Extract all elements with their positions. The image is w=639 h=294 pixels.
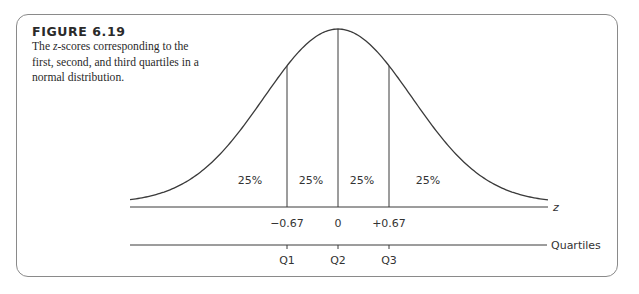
- normal-distribution-diagram: z 25% 25% 25% 25% −0.67 0 +0.67 Quartile…: [0, 0, 639, 294]
- region-label-2: 25%: [299, 174, 323, 187]
- region-label-1: 25%: [238, 174, 262, 187]
- normal-curve: [130, 29, 548, 200]
- z-tick-label-q1: −0.67: [270, 217, 304, 230]
- z-tick-label-q2: 0: [335, 217, 342, 230]
- region-label-4: 25%: [416, 174, 440, 187]
- z-axis-label: z: [552, 201, 559, 214]
- quartile-label-q2: Q2: [330, 254, 346, 267]
- quartile-label-q3: Q3: [381, 254, 397, 267]
- quartile-label-q1: Q1: [279, 254, 295, 267]
- quartiles-axis-label: Quartiles: [551, 239, 601, 252]
- region-label-3: 25%: [350, 174, 374, 187]
- z-tick-label-q3: +0.67: [372, 217, 406, 230]
